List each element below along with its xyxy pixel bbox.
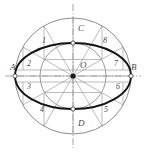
node-marker-d [71,107,75,111]
node-marker-center-o [70,73,75,78]
point-label-7: 7 [114,59,119,68]
axis-label-c: C [78,23,85,33]
point-label-3: 3 [26,82,31,91]
ellipse-construction-figure: A B C D O 1 2 3 4 5 6 7 8 [0,0,146,152]
point-label-5: 5 [104,105,108,114]
node-marker-b [129,74,133,78]
point-label-4: 4 [40,105,44,114]
node-marker-c [71,41,75,45]
axis-label-a: A [9,62,16,72]
node-marker-a [13,74,17,78]
axis-label-o: O [80,60,87,70]
point-label-1: 1 [42,36,46,45]
axis-label-d: D [77,118,85,128]
point-label-6: 6 [116,82,120,91]
point-label-8: 8 [103,36,107,45]
axis-label-b: B [131,62,137,72]
point-label-2: 2 [27,59,31,68]
